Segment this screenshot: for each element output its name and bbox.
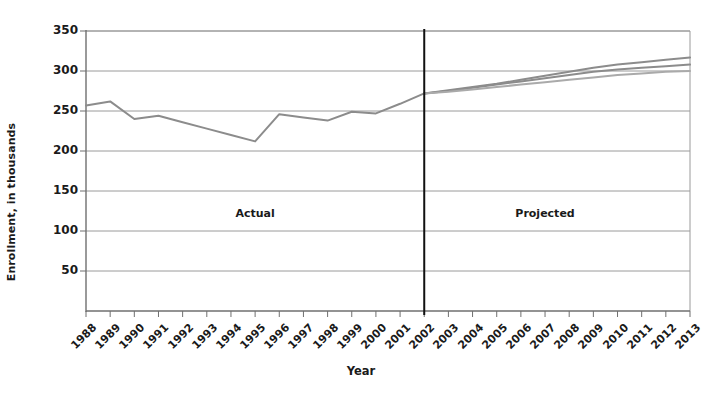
series-line (86, 93, 424, 141)
y-tick-label: 100 (32, 223, 78, 237)
x-axis-title: Year (0, 364, 722, 378)
chart-container: Enrollment, in thousands 350300250200150… (0, 0, 722, 404)
y-tick-label: 350 (32, 23, 78, 37)
actual-region-label: Actual (205, 207, 305, 220)
y-tick-label: 150 (32, 183, 78, 197)
y-tick-label: 300 (32, 63, 78, 77)
y-tick-label: 200 (32, 143, 78, 157)
y-tick-label: 50 (32, 263, 78, 277)
projected-region-label: Projected (495, 207, 595, 220)
series-line (424, 65, 690, 94)
y-tick-label: 250 (32, 103, 78, 117)
